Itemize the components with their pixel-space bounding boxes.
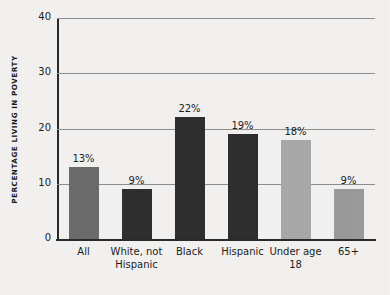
bar-value-label: 22% [178, 103, 200, 114]
category-label: White, not Hispanic [110, 245, 163, 271]
category-label: Hispanic [216, 245, 269, 258]
bar-value-label: 13% [72, 153, 94, 164]
x-axis-category-labels: AllWhite, not HispanicBlackHispanicUnder… [57, 245, 375, 290]
y-tick-label-20: 20 [17, 122, 51, 133]
plot-area: 13%9%22%19%18%9% [57, 18, 375, 240]
cropped-chart-title [0, 0, 390, 6]
category-label: Under age 18 [269, 245, 322, 271]
bar-value-label: 9% [129, 175, 145, 186]
category-label: Black [163, 245, 216, 258]
y-tick-label-30: 30 [17, 66, 51, 77]
y-tick-label-0: 0 [17, 232, 51, 243]
bar-white-not-hispanic: 9% [122, 189, 152, 239]
y-tick-label-40: 40 [17, 11, 51, 22]
category-label: 65+ [322, 245, 375, 258]
bar-hispanic: 19% [228, 134, 258, 239]
bar-value-label: 19% [231, 120, 253, 131]
poverty-bar-chart: PERCENTAGE LIVING IN POVERTY 13%9%22%19%… [0, 0, 390, 295]
category-label: All [57, 245, 110, 258]
bar-all: 13% [69, 167, 99, 239]
bar-value-label: 9% [341, 175, 357, 186]
bar-series: 13%9%22%19%18%9% [57, 18, 375, 240]
y-tick-label-10: 10 [17, 177, 51, 188]
bar-65: 9% [334, 189, 364, 239]
bar-black: 22% [175, 117, 205, 239]
bar-under-age-18: 18% [281, 140, 311, 239]
bar-value-label: 18% [284, 126, 306, 137]
